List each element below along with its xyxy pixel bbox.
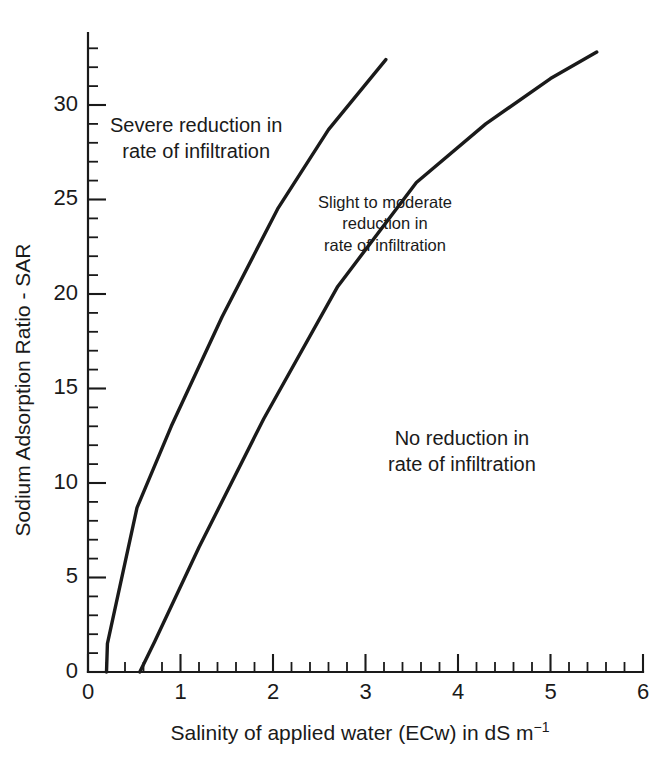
y-tick-label: 20 [54,280,78,305]
x-axis-title-main: Salinity of applied water (ECw) in dS m [171,721,534,744]
y-tick-label: 25 [54,185,78,210]
y-tick-label: 0 [66,658,78,683]
chart-figure: 0 1 2 3 4 5 6 0 5 10 15 20 25 30 Sodium … [0,0,671,766]
annotation-line: rate of infiltration [110,138,282,164]
annotation-line: No reduction in [388,425,536,451]
x-axis-tick-labels: 0 1 2 3 4 5 6 [82,679,649,704]
y-axis-minor-ticks [88,48,98,653]
y-axis-major-ticks [88,105,106,672]
y-tick-label: 30 [54,91,78,116]
annotation-line: rate of infiltration [318,235,452,256]
chart-plot-area: 0 1 2 3 4 5 6 0 5 10 15 20 25 30 Sodium … [0,0,671,766]
x-tick-label: 0 [82,679,94,704]
x-tick-label: 5 [544,679,556,704]
x-tick-label: 1 [174,679,186,704]
x-axis-title: Salinity of applied water (ECw) in dS m−… [171,719,550,744]
y-axis-tick-labels: 0 5 10 15 20 25 30 [54,91,78,683]
x-tick-label: 4 [452,679,464,704]
y-axis-title: Sodium Adsorption Ratio - SAR [11,244,34,537]
x-axis-title-exponent: −1 [534,719,550,735]
annotation-line: rate of infiltration [388,451,536,477]
annotation-line: reduction in [318,213,452,234]
y-tick-label: 5 [66,563,78,588]
x-tick-label: 2 [267,679,279,704]
annotation-severe-region: Severe reduction in rate of infiltration [110,112,282,164]
x-tick-label: 6 [637,679,649,704]
annotation-line: Slight to moderate [318,192,452,213]
x-axis-major-ticks [88,654,643,672]
y-tick-label: 15 [54,374,78,399]
annotation-slight-moderate-region: Slight to moderate reduction in rate of … [318,192,452,256]
annotation-no-reduction-region: No reduction in rate of infiltration [388,425,536,477]
x-tick-label: 3 [359,679,371,704]
y-tick-label: 10 [54,469,78,494]
annotation-line: Severe reduction in [110,112,282,138]
